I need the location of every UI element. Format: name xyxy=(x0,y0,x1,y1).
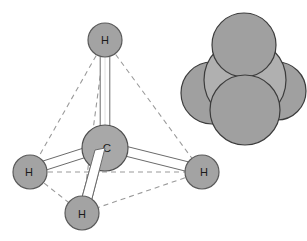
atom-hydrogen-left[interactable]: H xyxy=(13,155,47,189)
hydrogen-bottom-sphere xyxy=(65,196,99,230)
hydrogen-left-sphere xyxy=(13,155,47,189)
methane-diagram-svg: C H H H H xyxy=(0,0,307,241)
atom-hydrogen-right[interactable]: H xyxy=(185,155,219,189)
atom-hydrogen-top[interactable]: H xyxy=(88,23,122,57)
hydrogen-right-sphere xyxy=(185,155,219,189)
atom-hydrogen-bottom[interactable]: H xyxy=(65,196,99,230)
spacefill-hydrogen-top[interactable] xyxy=(212,13,276,77)
methane-figure: C H H H H xyxy=(0,0,307,241)
hydrogen-top-sphere xyxy=(88,23,122,57)
spacefill-hydrogen-front[interactable] xyxy=(210,75,280,145)
